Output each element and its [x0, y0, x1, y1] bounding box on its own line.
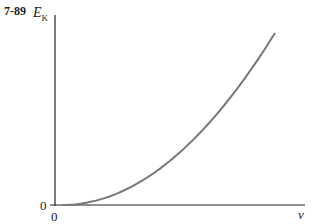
- y-tick-0: 0: [40, 199, 47, 212]
- x-tick-0: 0: [51, 210, 58, 223]
- x-axis-label: v: [298, 208, 304, 221]
- chart-plot: [0, 0, 314, 224]
- data-line: [62, 33, 275, 205]
